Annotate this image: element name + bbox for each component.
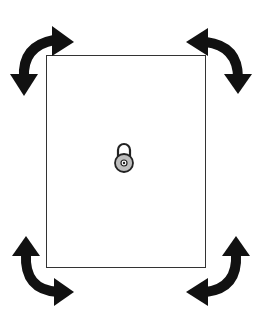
padlock-icon bbox=[113, 141, 135, 175]
rotate-arrow-bottom-left-icon bbox=[4, 232, 84, 312]
rotate-arrow-top-left-icon bbox=[4, 18, 84, 98]
rotate-arrow-top-right-icon bbox=[178, 20, 258, 100]
rotate-arrow-bottom-right-icon bbox=[178, 232, 258, 312]
